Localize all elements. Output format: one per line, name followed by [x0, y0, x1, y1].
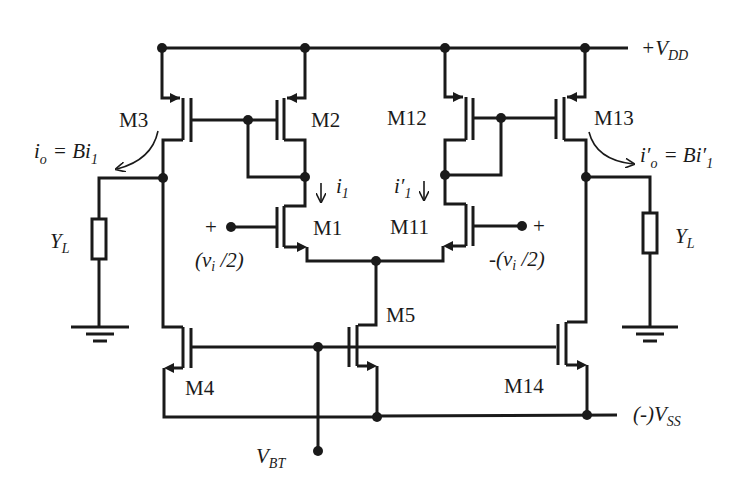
m2-label: M2: [311, 108, 340, 132]
input-label-left: (vi /2): [195, 248, 244, 274]
vbt-terminal: [313, 446, 323, 456]
m14-label: M14: [504, 374, 544, 398]
source-arrow-icon: [567, 92, 577, 102]
source-arrow-icon: [453, 92, 463, 102]
output-current-arrow-icon: [589, 132, 633, 164]
m4-label: M4: [185, 376, 215, 400]
load-yl-left: [92, 219, 106, 259]
transistor-m5: [349, 261, 382, 422]
source-arrow-icon: [287, 93, 297, 103]
ground-icon: [622, 327, 678, 341]
transistor-m14: [558, 177, 587, 415]
vdd-label: +VDD: [641, 36, 688, 63]
circuit-diagram: +VDD M3 M2 i1 M1 + (vi /2): [0, 0, 755, 491]
m3-label: M3: [119, 108, 148, 132]
input-terminal-left: [226, 222, 236, 232]
vbt-label: VBT: [256, 444, 286, 471]
vdd-rail: [157, 43, 628, 53]
transistor-m12: [440, 48, 556, 180]
ground-icon: [71, 327, 129, 341]
i1-label: i1: [336, 174, 349, 201]
vss-rail: [377, 410, 617, 420]
input-label-right: -(vi /2): [489, 247, 545, 273]
yl-right-label: YL: [675, 224, 695, 251]
transistor-m13: [556, 48, 586, 177]
wire: [586, 177, 650, 213]
input-plus-right: +: [533, 214, 545, 238]
m12-label: M12: [387, 106, 427, 130]
yl-left-label: YL: [50, 229, 70, 256]
input-terminal-right: [517, 221, 527, 231]
io-right-label: i′o= Bi′1: [640, 143, 713, 171]
wire: [99, 178, 163, 219]
vss-label: (-)VSS: [633, 402, 681, 429]
load-yl-right: [643, 213, 657, 253]
source-arrow-icon: [170, 93, 180, 103]
transistor-m1: [226, 177, 378, 261]
transistor-m3: [162, 48, 248, 177]
m1-label: M1: [313, 216, 342, 240]
transistor-m2: [243, 48, 310, 182]
m11-label: M11: [390, 215, 429, 239]
io-left-label: io= Bi1: [34, 139, 98, 167]
input-plus-left: +: [205, 215, 217, 239]
output-current-arrow-icon: [117, 131, 158, 169]
m13-label: M13: [594, 106, 634, 130]
m5-label: M5: [386, 303, 415, 327]
i1-prime-label: i′1: [394, 174, 411, 201]
